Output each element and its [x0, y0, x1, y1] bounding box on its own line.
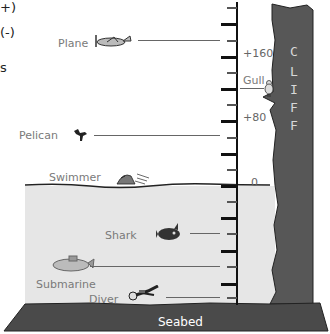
- submarine-label: Submarine: [36, 279, 96, 290]
- tick-mark: [227, 233, 237, 235]
- cliff-letter: C: [287, 44, 301, 59]
- diver-icon: [128, 285, 162, 303]
- plane-guide-line: [138, 40, 220, 41]
- tick-mark: [227, 266, 237, 268]
- cliff-letter: F: [287, 100, 301, 115]
- swimmer-label: Swimmer: [49, 172, 101, 183]
- tick-mark: [221, 88, 237, 91]
- cliff-letter: L: [287, 64, 301, 79]
- tick-mark: [221, 283, 237, 286]
- diver-guide-line: [166, 297, 220, 298]
- tick-mark: [221, 250, 237, 253]
- gull-label: Gull: [243, 75, 265, 86]
- submarine-guide-line: [90, 266, 220, 267]
- tick-mark: [221, 120, 237, 123]
- tick-mark: [227, 40, 237, 42]
- swimmer-icon: [113, 170, 155, 186]
- shark-guide-line: [190, 233, 220, 234]
- tick-mark: [227, 104, 237, 106]
- tick-mark: [227, 72, 237, 74]
- gull-guide-line: [240, 88, 264, 89]
- submarine-icon: [51, 251, 95, 273]
- tick-mark: [227, 169, 237, 171]
- tick-mark: [221, 185, 237, 188]
- plane-label: Plane: [58, 38, 88, 49]
- pelican-icon: [73, 127, 89, 143]
- tick-mark: [227, 137, 237, 139]
- shark-icon: [156, 222, 184, 242]
- cliff-letter: I: [287, 82, 301, 97]
- tick-mark: [227, 297, 237, 299]
- seabed-label: Seabed: [158, 316, 203, 328]
- airplane-icon: [94, 33, 134, 49]
- scale-label-plus-80: +80: [243, 112, 266, 123]
- tick-mark: [221, 153, 237, 156]
- pelican-guide-line: [94, 135, 220, 136]
- pelican-label: Pelican: [19, 130, 58, 141]
- tick-mark: [221, 56, 237, 59]
- cliff-letter: F: [287, 118, 301, 133]
- tick-mark: [221, 217, 237, 220]
- tick-mark: [227, 201, 237, 203]
- scale-label-plus-160: +160: [243, 48, 273, 59]
- scale-label-zero: 0: [251, 177, 258, 188]
- tick-mark: [221, 23, 237, 26]
- tick-mark: [227, 7, 237, 9]
- diver-label: Diver: [89, 294, 118, 305]
- shark-label: Shark: [105, 230, 137, 241]
- seagull-icon: [264, 80, 274, 98]
